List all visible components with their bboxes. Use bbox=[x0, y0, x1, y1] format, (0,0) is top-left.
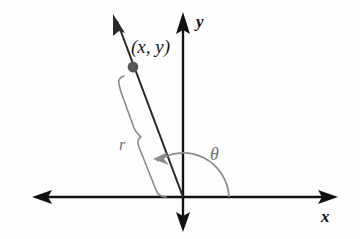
radius-label: r bbox=[119, 136, 126, 153]
terminal-ray-arrowhead bbox=[113, 14, 125, 36]
x-axis-label: x bbox=[320, 207, 330, 226]
polar-coordinate-figure: (x, y) y x r θ bbox=[0, 0, 360, 239]
angle-label: θ bbox=[210, 144, 219, 164]
y-axis-label: y bbox=[194, 12, 204, 31]
point-coordinate-label: (x, y) bbox=[131, 36, 170, 58]
angle-arc-arrowhead bbox=[153, 152, 169, 165]
polar-diagram-svg: (x, y) y x r θ bbox=[0, 0, 360, 239]
point-marker-dot bbox=[128, 62, 139, 73]
radius-brace bbox=[119, 76, 166, 197]
